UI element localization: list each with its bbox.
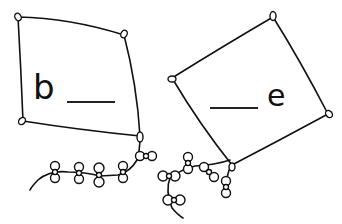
right-kite-outline: [172, 17, 328, 165]
right-kite-blank[interactable]: [210, 107, 258, 109]
left-kite-letter: b: [33, 70, 55, 104]
tail-bows: [51, 152, 231, 206]
kites-drawing: [0, 0, 342, 224]
left-kite-blank[interactable]: [67, 101, 115, 103]
right-kite-letter: e: [267, 81, 285, 111]
